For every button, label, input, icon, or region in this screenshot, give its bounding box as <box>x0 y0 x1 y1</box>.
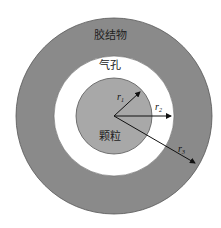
particle-label: 颗粒 <box>99 129 121 143</box>
pore-label: 气孔 <box>99 58 121 72</box>
cement-label: 胶结物 <box>94 28 127 42</box>
diagram-canvas: 胶结物 气孔 颗粒 r1 r2 r3 <box>0 0 221 228</box>
